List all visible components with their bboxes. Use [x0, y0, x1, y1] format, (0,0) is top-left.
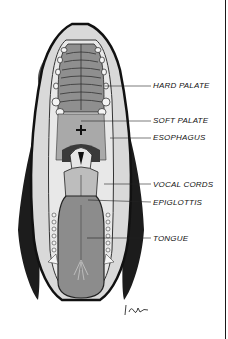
label-epiglottis: EPIGLOTTIS	[153, 198, 202, 207]
illustration-frame: HARD PALATE SOFT PALATE ESOPHAGUS VOCAL …	[0, 0, 228, 339]
label-soft-palate: SOFT PALATE	[153, 116, 208, 125]
artist-signature	[125, 305, 148, 315]
label-esophagus: ESOPHAGUS	[153, 133, 205, 142]
label-vocal-cords: VOCAL CORDS	[153, 180, 213, 189]
label-tongue: TONGUE	[153, 234, 188, 243]
oral-cavity-illustration	[0, 0, 228, 339]
page-edge-divider	[225, 0, 226, 339]
label-hard-palate: HARD PALATE	[153, 81, 210, 90]
tongue-region	[58, 196, 104, 298]
hard-palate-region	[58, 44, 104, 112]
